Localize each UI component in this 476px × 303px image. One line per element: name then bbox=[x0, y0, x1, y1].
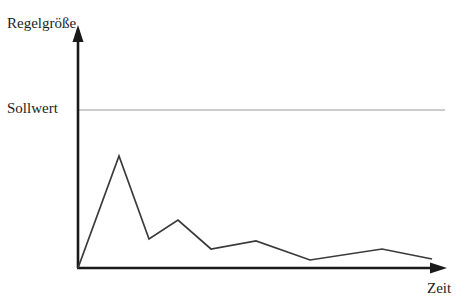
x-axis-label: Zeit bbox=[427, 281, 451, 296]
process-variable-curve bbox=[78, 156, 432, 268]
control-loop-diagram: Regelgröße Sollwert Zeit bbox=[0, 0, 476, 303]
chart-svg bbox=[0, 0, 476, 303]
setpoint-label: Sollwert bbox=[7, 101, 58, 116]
x-axis-arrowhead-icon bbox=[430, 263, 447, 274]
y-axis-label: Regelgröße bbox=[7, 16, 76, 31]
